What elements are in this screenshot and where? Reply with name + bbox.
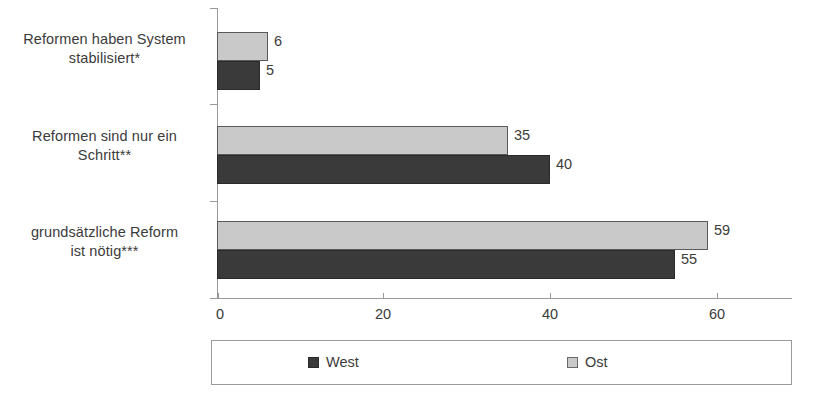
legend-label-ost: Ost — [585, 354, 608, 370]
legend-entry-ost: Ost — [567, 354, 608, 370]
category-label-3-line-1: grundsätzliche Reform — [2, 223, 207, 242]
bar-ost-group-2 — [217, 126, 508, 155]
y-axis-tick-1 — [210, 104, 218, 105]
bar-value-ost-group-2: 35 — [514, 127, 530, 143]
legend-label-west: West — [326, 354, 359, 370]
bar-value-west-group-1: 5 — [266, 62, 274, 78]
category-label-1-line-2: stabilisiert* — [2, 49, 207, 68]
category-label-1: Reformen haben System stabilisiert* — [2, 30, 207, 68]
x-axis-label-60: 60 — [709, 306, 725, 322]
bar-ost-group-3 — [217, 221, 708, 250]
chart-legend: West Ost — [211, 340, 792, 385]
x-axis-line — [217, 298, 792, 299]
x-axis-tick-40 — [550, 293, 551, 299]
x-axis-label-0: 0 — [216, 306, 224, 322]
x-axis-tick-60 — [717, 293, 718, 299]
category-label-1-line-1: Reformen haben System — [2, 30, 207, 49]
x-axis-tick-0 — [218, 293, 219, 299]
x-axis-label-20: 20 — [375, 306, 391, 322]
bar-chart: Reformen haben System stabilisiert* Refo… — [0, 0, 813, 405]
bar-value-ost-group-3: 59 — [714, 222, 730, 238]
bar-west-group-3 — [217, 250, 675, 279]
y-axis-tick-3 — [210, 298, 218, 299]
category-label-3-line-2: ist nötig*** — [2, 242, 207, 261]
bar-value-west-group-3: 55 — [681, 251, 697, 267]
category-label-2-line-2: Schritt** — [2, 146, 207, 165]
x-axis-label-40: 40 — [542, 306, 558, 322]
category-label-2: Reformen sind nur ein Schritt** — [2, 127, 207, 165]
legend-entry-west: West — [308, 354, 359, 370]
category-label-2-line-1: Reformen sind nur ein — [2, 127, 207, 146]
category-label-3: grundsätzliche Reform ist nötig*** — [2, 223, 207, 261]
legend-swatch-ost-icon — [567, 357, 578, 368]
y-axis-tick-top — [210, 8, 218, 9]
bar-value-ost-group-1: 6 — [274, 33, 282, 49]
bar-west-group-1 — [217, 61, 260, 90]
y-axis-tick-2 — [210, 201, 218, 202]
bar-ost-group-1 — [217, 32, 268, 61]
x-axis-tick-20 — [383, 293, 384, 299]
bar-west-group-2 — [217, 155, 550, 184]
bar-value-west-group-2: 40 — [556, 156, 572, 172]
legend-swatch-west-icon — [308, 357, 319, 368]
